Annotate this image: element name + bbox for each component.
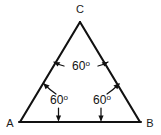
angle-value-left: 60 (50, 93, 64, 107)
angle-value-apex: 60 (72, 59, 86, 73)
geometry-diagram-canvas: C A B 60o 60o 60o (0, 0, 161, 135)
angle-label-right: 60o (93, 93, 111, 107)
triangle-figure: C A B 60o 60o 60o (0, 0, 161, 135)
degree-symbol-apex: o (85, 59, 90, 68)
vertex-label-a: A (6, 117, 14, 129)
degree-symbol-left: o (63, 93, 68, 102)
vertex-label-c: C (76, 3, 84, 15)
angle-label-apex: 60o (72, 59, 90, 73)
triangle-edge-left (20, 22, 80, 122)
vertex-label-b: B (146, 117, 153, 129)
degree-symbol-right: o (106, 93, 111, 102)
angle-label-left: 60o (50, 93, 68, 107)
angle-value-right: 60 (93, 93, 107, 107)
left-leader-lower-arrowhead (56, 115, 61, 121)
right-leader-lower-arrowhead (98, 115, 103, 121)
triangle-edge-right (80, 22, 140, 122)
